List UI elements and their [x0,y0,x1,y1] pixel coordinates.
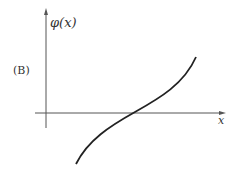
y-axis-arrow-icon [44,8,48,15]
y-axis-label: φ(x) [50,15,77,30]
function-curve [76,57,196,164]
diagram-canvas [0,0,234,175]
option-label: (B) [13,64,30,77]
x-axis-label: x [218,114,224,127]
